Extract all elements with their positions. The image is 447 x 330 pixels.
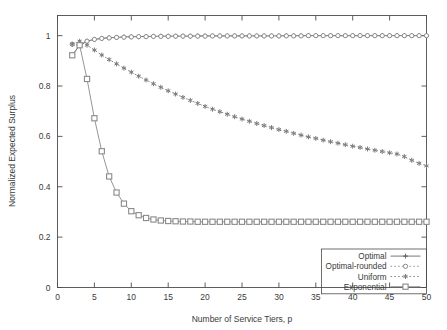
legend-label-uniform: Uniform — [358, 273, 387, 282]
y-tick-label: 0.4 — [39, 182, 51, 192]
chart-plot-area: 00.20.40.60.81 05101520253035404550 Opti… — [0, 0, 447, 330]
x-tick-label: 40 — [348, 292, 358, 302]
legend-label-optimal-rounded: Optimal-rounded — [326, 262, 387, 271]
y-tick-label: 0 — [46, 283, 51, 293]
data-series-group — [70, 33, 429, 224]
y-tick-label: 1 — [46, 31, 51, 41]
legend-label-optimal: Optimal — [358, 252, 386, 261]
x-tick-label: 0 — [55, 292, 60, 302]
x-tick-label: 20 — [200, 292, 210, 302]
x-tick-label: 35 — [311, 292, 321, 302]
legend-marker-exponential — [403, 284, 408, 289]
legend-label-exponential: Exponential — [344, 283, 387, 292]
y-tick-label: 0.8 — [39, 81, 51, 91]
x-tick-label: 15 — [163, 292, 173, 302]
x-axis-title: Number of Service Tiers, p — [192, 314, 293, 324]
series-optimal-rounded — [70, 34, 429, 48]
y-axis-title: Normalized Expected Surplus — [7, 95, 17, 207]
series-uniform — [70, 39, 429, 169]
legend-marker-optimal-rounded — [403, 264, 407, 268]
chart-figure: 00.20.40.60.81 05101520253035404550 Opti… — [0, 0, 447, 330]
plot-frame — [58, 16, 427, 288]
legend-marker-optimal — [403, 254, 408, 259]
y-tick-label: 0.6 — [39, 131, 51, 141]
x-tick-label: 5 — [92, 292, 97, 302]
y-tick-label: 0.2 — [39, 232, 51, 242]
x-tick-label: 25 — [237, 292, 247, 302]
x-tick-label: 30 — [274, 292, 284, 302]
x-tick-label: 45 — [385, 292, 395, 302]
x-tick-label: 10 — [127, 292, 137, 302]
